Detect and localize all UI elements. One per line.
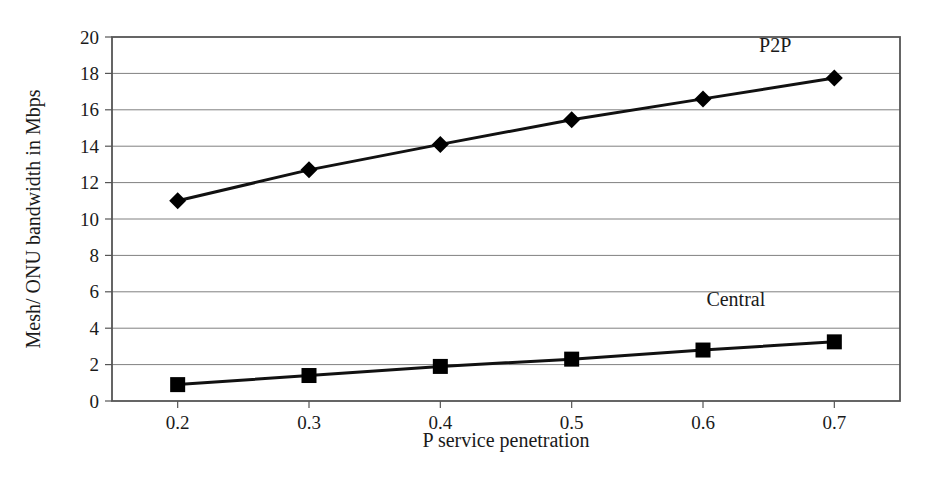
y-tick-label: 6 <box>90 281 100 302</box>
series-label-p2p: P2P <box>759 34 791 56</box>
x-tick-label: 0.7 <box>822 412 846 433</box>
line-chart: 02468101214161820 0.20.30.40.50.60.7 P2P… <box>0 0 947 482</box>
chart-page: 02468101214161820 0.20.30.40.50.60.7 P2P… <box>0 0 947 482</box>
x-tick-label: 0.6 <box>691 412 715 433</box>
y-tick-label: 12 <box>80 172 99 193</box>
y-tick-label: 20 <box>80 27 99 48</box>
y-tick-label: 14 <box>80 136 100 157</box>
y-tick-label: 16 <box>80 99 99 120</box>
chart-background <box>0 0 947 482</box>
y-tick-label: 0 <box>90 391 100 412</box>
y-axis-title: Mesh/ ONU bandwidth in Mbps <box>22 89 45 348</box>
data-point-marker-central <box>433 359 448 374</box>
data-point-marker-central <box>696 343 711 358</box>
x-tick-label: 0.2 <box>166 412 190 433</box>
data-point-marker-central <box>170 377 185 392</box>
y-tick-label: 10 <box>80 209 99 230</box>
x-tick-label: 0.3 <box>297 412 321 433</box>
y-tick-label: 2 <box>90 354 100 375</box>
series-label-central: Central <box>706 288 765 310</box>
x-axis-title: P service penetration <box>423 429 590 452</box>
data-point-marker-central <box>302 368 317 383</box>
data-point-marker-central <box>564 352 579 367</box>
y-tick-label: 4 <box>90 318 100 339</box>
y-tick-label: 8 <box>90 245 100 266</box>
y-tick-label: 18 <box>80 63 99 84</box>
data-point-marker-central <box>827 334 842 349</box>
